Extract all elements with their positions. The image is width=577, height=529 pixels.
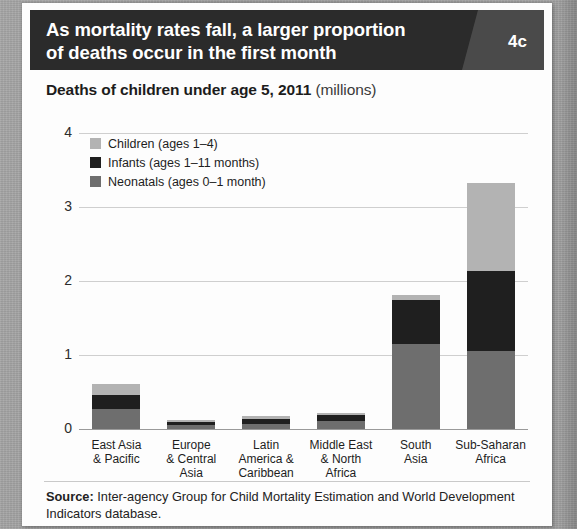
x-axis-label-line: Sub-Saharan	[453, 438, 528, 452]
source-label: Source:	[46, 489, 94, 504]
x-axis-label: LatinAmerica &Caribbean	[229, 438, 304, 480]
source-note: Source: Inter-agency Group for Child Mor…	[46, 489, 532, 522]
x-axis-label: Europe& CentralAsia	[154, 438, 229, 480]
y-axis-tick-2: 2	[50, 272, 72, 288]
x-axis-label-line: & Central	[154, 452, 229, 466]
x-axis-label-line: America &	[229, 452, 304, 466]
source-text: Inter-agency Group for Child Mortality E…	[46, 489, 514, 521]
bar-segment	[167, 425, 215, 429]
x-axis-label: Sub-SaharanAfrica	[453, 438, 528, 466]
bar-segment	[317, 421, 365, 429]
legend-swatch-icon	[90, 176, 101, 187]
gridline-3	[79, 207, 528, 208]
y-axis-tick-3: 3	[50, 198, 72, 214]
legend-label: Neonatals (ages 0–1 month)	[108, 175, 266, 189]
bar-segment	[392, 300, 440, 344]
x-axis-label: East Asia& Pacific	[79, 438, 154, 466]
bar-segment	[467, 271, 515, 351]
x-axis-label-line: Latin	[229, 438, 304, 452]
legend-swatch-icon	[90, 157, 101, 168]
x-axis-label-line: & Pacific	[79, 452, 154, 466]
bar-east-asia-pacific	[92, 384, 140, 429]
bar-segment	[392, 344, 440, 429]
y-axis-tick-0: 0	[50, 420, 72, 436]
x-axis-label-line: Asia	[378, 452, 453, 466]
legend-item: Children (ages 1–4)	[90, 135, 266, 152]
bar-segment	[92, 384, 140, 395]
scanned-page: As mortality rates fall, a larger propor…	[0, 0, 577, 529]
y-axis-tick-4: 4	[50, 124, 72, 140]
bar-latin-america-caribbean	[242, 416, 290, 429]
chart-plot-area: 01234Children (ages 1–4)Infants (ages 1–…	[22, 3, 552, 526]
bar-europe-central-asia	[167, 420, 215, 429]
bar-sub-saharan-africa	[467, 183, 515, 429]
page-edge-shadow	[559, 0, 577, 529]
x-axis-label: Middle East& NorthAfrica	[304, 438, 379, 480]
x-axis-label-line: Africa	[453, 452, 528, 466]
x-axis-label-line: Middle East	[304, 438, 379, 452]
legend-item: Neonatals (ages 0–1 month)	[90, 173, 266, 190]
legend-label: Infants (ages 1–11 months)	[108, 156, 259, 170]
gridline-0	[79, 429, 528, 430]
bar-middle-east-north-africa	[317, 413, 365, 429]
x-axis-label-line: Africa	[304, 466, 379, 480]
bar-segment	[242, 424, 290, 429]
bar-segment	[92, 395, 140, 409]
gridline-2	[79, 281, 528, 282]
legend-item: Infants (ages 1–11 months)	[90, 154, 266, 171]
bar-south-asia	[392, 295, 440, 429]
source-divider	[44, 481, 530, 482]
x-axis-label: SouthAsia	[378, 438, 453, 466]
x-axis-label-line: South	[378, 438, 453, 452]
legend-swatch-icon	[90, 138, 101, 149]
x-axis-label-line: Asia	[154, 466, 229, 480]
x-axis-label-line: East Asia	[79, 438, 154, 452]
bar-segment	[92, 409, 140, 429]
bar-segment	[467, 183, 515, 271]
chart-legend: Children (ages 1–4)Infants (ages 1–11 mo…	[90, 135, 266, 192]
gridline-1	[79, 355, 528, 356]
legend-label: Children (ages 1–4)	[108, 137, 218, 151]
x-axis-label-line: & North	[304, 452, 379, 466]
x-axis-label-line: Europe	[154, 438, 229, 452]
gridline-4	[79, 133, 528, 134]
bar-segment	[467, 351, 515, 429]
figure-card: As mortality rates fall, a larger propor…	[22, 3, 552, 526]
y-axis-tick-1: 1	[50, 346, 72, 362]
x-axis-label-line: Caribbean	[229, 466, 304, 480]
